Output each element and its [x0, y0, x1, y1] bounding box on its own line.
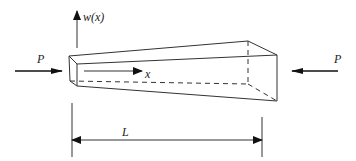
hidden-right-bottom-edge [248, 84, 277, 101]
length-dimension [72, 103, 262, 157]
top-front-edge [77, 55, 277, 64]
length-label: L [121, 125, 129, 139]
right-load-label: P [333, 52, 342, 66]
hidden-bottom-back-edge [70, 81, 248, 84]
tapered-beam-diagram: w(x) x P P L [0, 0, 356, 161]
deflection-label: w(x) [83, 10, 104, 24]
right-top-edge [248, 41, 277, 55]
bottom-front-edge [77, 86, 277, 101]
x-axis-label: x [144, 67, 151, 81]
top-back-edge [69, 41, 248, 56]
left-load-label: P [36, 52, 45, 66]
